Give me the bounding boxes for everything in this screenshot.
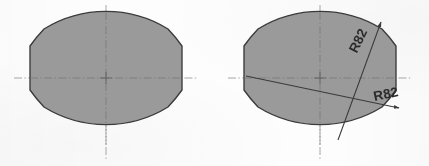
- left-view: [14, 5, 198, 161]
- technical-drawing-canvas: R82 R82: [0, 0, 429, 166]
- drawing-page: WCAD: [0, 0, 429, 166]
- right-view: R82 R82: [228, 5, 412, 161]
